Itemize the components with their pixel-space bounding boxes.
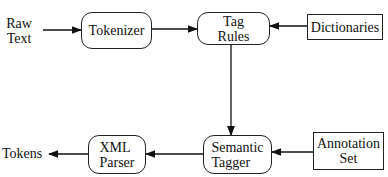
- dictionaries-label: Dictionaries: [311, 20, 379, 35]
- semantic-tagger-node: Semantic Tagger: [203, 135, 272, 174]
- raw-text-input-label: Raw Text: [4, 16, 34, 46]
- xml-parser-label: XML Parser: [100, 140, 135, 170]
- annotation-set-label: Annotation Set: [317, 136, 380, 166]
- tokenizer-node: Tokenizer: [81, 12, 152, 49]
- tag-rules-node: Tag Rules: [197, 12, 270, 45]
- tag-rules-label: Tag Rules: [218, 14, 250, 44]
- tokenizer-label: Tokenizer: [89, 23, 145, 38]
- tokens-output-label: Tokens: [2, 146, 42, 161]
- xml-parser-node: XML Parser: [88, 135, 146, 174]
- dictionaries-node: Dictionaries: [307, 14, 383, 40]
- annotation-set-node: Annotation Set: [313, 132, 384, 170]
- semantic-tagger-label: Semantic Tagger: [211, 140, 263, 170]
